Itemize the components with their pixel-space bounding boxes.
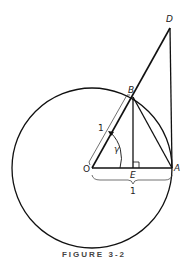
figure-caption: FIGURE 3-2	[0, 250, 188, 259]
segment-BA	[133, 97, 172, 168]
label-O: O	[83, 164, 90, 174]
label-gamma: γ	[114, 144, 120, 154]
right-angle-mark	[133, 162, 139, 168]
label-A: A	[173, 163, 180, 173]
label-D: D	[166, 14, 173, 24]
unit-circle-diagram: D B A O E γ 1 1	[0, 0, 188, 275]
bracket-OB	[89, 95, 130, 165]
label-B: B	[128, 85, 134, 95]
segment-OD	[92, 28, 170, 168]
label-E: E	[130, 170, 136, 180]
label-radius-OB: 1	[98, 123, 104, 133]
label-radius-OA: 1	[130, 186, 136, 196]
segment-AD	[170, 28, 172, 168]
